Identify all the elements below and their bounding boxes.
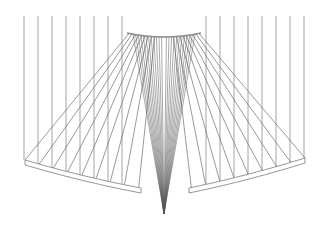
cable-right: [193, 35, 277, 167]
cable-left: [68, 35, 139, 172]
fan-line-right: [164, 37, 174, 214]
cable-left: [82, 36, 142, 176]
cable-right: [196, 34, 291, 162]
fan-line-left: [143, 36, 164, 214]
cable-left: [25, 33, 129, 160]
diagram-canvas: [0, 0, 324, 235]
cable-left: [39, 34, 132, 164]
fan-line-right: [164, 36, 185, 214]
cable-right: [189, 35, 262, 170]
cable-right: [199, 33, 305, 158]
cable-right: [186, 36, 248, 175]
fan-cables: [25, 33, 305, 187]
central-converging-fan: [133, 34, 195, 214]
fan-line-left: [154, 37, 164, 214]
suspension-structure-drawing: [0, 0, 324, 235]
fan-line-left: [141, 35, 164, 214]
cable-left: [96, 36, 145, 179]
vertical-hangers: [24, 16, 304, 184]
left-plank: [25, 160, 141, 193]
